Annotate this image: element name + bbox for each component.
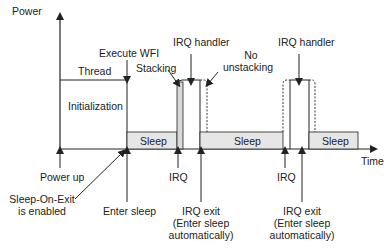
irq-exit-2-label: IRQ exit (Enter sleep automatically) xyxy=(266,205,338,241)
irq-exit-1-line-2: (Enter sleep xyxy=(166,217,236,229)
sleep-label-3: Sleep xyxy=(322,135,349,147)
irq-exit-1-line-3: automatically) xyxy=(166,229,236,241)
power-up-label: Power up xyxy=(40,171,84,183)
irq-exit-1-label: IRQ exit (Enter sleep automatically) xyxy=(166,205,236,241)
initialization-label: Initialization xyxy=(68,100,123,112)
stacking-label: Stacking xyxy=(136,62,176,74)
thread-label: Thread xyxy=(78,65,111,77)
stacking-bar xyxy=(177,82,183,149)
irq-exit-2-line-2: (Enter sleep xyxy=(266,217,338,229)
irq-handler-2-label: IRQ handler xyxy=(278,36,335,48)
no-unstacking-line-2: unstacking xyxy=(218,61,278,73)
sleep-on-exit-line-1: Sleep-On-Exit xyxy=(6,193,78,205)
no-unstacking-label: No unstacking xyxy=(218,49,278,73)
x-axis-label: Time xyxy=(361,155,384,167)
y-axis-label: Power xyxy=(12,5,42,17)
sleep-label-1: Sleep xyxy=(140,135,167,147)
enter-sleep-label: Enter sleep xyxy=(103,205,156,217)
irq-exit-2-line-1: IRQ exit xyxy=(266,205,338,217)
execute-wfi-label: Execute WFI xyxy=(99,47,159,59)
sleep-on-exit-label: Sleep-On-Exit is enabled xyxy=(6,193,78,217)
no-unstacking-arrow xyxy=(208,72,218,84)
sleep-label-2: Sleep xyxy=(234,135,261,147)
irq-2-label: IRQ xyxy=(277,171,296,183)
irq-exit-2-line-3: automatically) xyxy=(266,229,338,241)
irq-exit-1-line-1: IRQ exit xyxy=(166,205,236,217)
no-unstacking-line-1: No xyxy=(218,49,278,61)
irq-1-label: IRQ xyxy=(169,171,188,183)
irq-handler-1-label: IRQ handler xyxy=(173,36,230,48)
sleep-on-exit-line-2: is enabled xyxy=(6,205,78,217)
